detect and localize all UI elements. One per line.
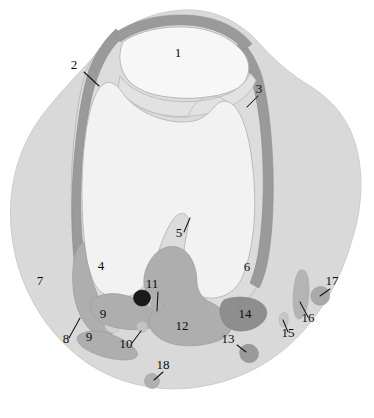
label-5: 5 — [176, 225, 183, 240]
label-2: 2 — [71, 57, 78, 72]
label-4: 4 — [98, 258, 105, 273]
posterior-structure-13 — [240, 344, 259, 362]
label-12: 12 — [176, 318, 189, 333]
label-7: 7 — [37, 273, 44, 288]
label-15: 15 — [282, 325, 295, 340]
label-9-upper: 9 — [100, 306, 107, 321]
label-16: 16 — [302, 310, 316, 325]
label-3: 3 — [256, 81, 263, 96]
anatomical-figure: 1 2 3 4 5 6 7 8 9 9 10 11 12 13 14 15 16… — [0, 0, 374, 418]
inferior-nodule-18 — [145, 374, 160, 389]
medial-vessel-10 — [137, 322, 148, 333]
label-11: 11 — [146, 276, 159, 291]
label-6: 6 — [244, 259, 251, 274]
label-17: 17 — [326, 273, 340, 288]
label-14: 14 — [239, 306, 253, 321]
label-8: 8 — [63, 331, 70, 346]
label-1: 1 — [175, 45, 182, 60]
label-18: 18 — [157, 357, 170, 372]
label-10: 10 — [120, 336, 133, 351]
cross-section-illustration: 1 2 3 4 5 6 7 8 9 9 10 11 12 13 14 15 16… — [0, 0, 374, 418]
label-9-lower: 9 — [86, 329, 93, 344]
popliteal-artery-black — [134, 290, 151, 306]
label-13: 13 — [222, 331, 235, 346]
